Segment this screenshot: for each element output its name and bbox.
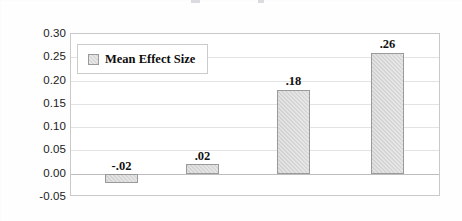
y-tick-5: 0.05 <box>10 143 66 155</box>
y-tick-4: 0.10 <box>10 120 66 132</box>
bar-4[interactable] <box>371 53 404 174</box>
bar-2[interactable] <box>186 164 219 173</box>
y-tick-7: -0.05 <box>10 190 66 202</box>
bar-2-value-label: .02 <box>186 149 219 164</box>
bar-1[interactable] <box>105 174 138 183</box>
y-tick-2: 0.20 <box>10 74 66 86</box>
y-tick-1: 0.25 <box>10 50 66 62</box>
y-tick-0: 0.30 <box>10 27 66 39</box>
y-tick-6: 0.00 <box>10 167 66 179</box>
legend-label: Mean Effect Size <box>105 52 195 67</box>
bar-3-value-label: .18 <box>277 74 310 89</box>
scan-artifact-mark-right <box>258 0 264 3</box>
chart-legend: Mean Effect Size <box>77 44 208 74</box>
legend-swatch-icon <box>88 54 99 65</box>
bar-1-value-label: -.02 <box>105 159 138 174</box>
scan-artifact-mark-left <box>191 0 200 3</box>
chart-page: 0.30 0.25 0.20 0.15 0.10 0.05 0.00 -0.05… <box>0 0 462 221</box>
y-tick-3: 0.15 <box>10 97 66 109</box>
y-axis-tick-labels: 0.30 0.25 0.20 0.15 0.10 0.05 0.00 -0.05 <box>0 33 66 196</box>
bar-3[interactable] <box>277 90 310 174</box>
bar-4-value-label: .26 <box>371 37 404 52</box>
plot-area: Mean Effect Size -.02 .02 .18 .26 <box>70 33 440 196</box>
